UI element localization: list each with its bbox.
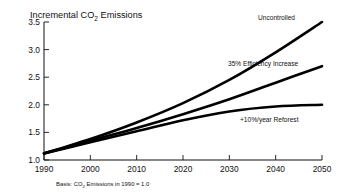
chart-title-suffix: Emissions bbox=[98, 10, 143, 20]
x-tick-label-3: 2020 bbox=[174, 164, 193, 174]
x-axis-labels: 1990 2000 2010 2020 2030 2040 2050 bbox=[35, 164, 332, 174]
x-tick-label-5: 2040 bbox=[266, 164, 285, 174]
y-tick-label-1: 1.5 bbox=[28, 127, 40, 137]
x-tick-label-2: 2010 bbox=[127, 164, 146, 174]
y-axis-ticks bbox=[44, 22, 49, 160]
x-axis-ticks bbox=[44, 155, 322, 160]
chart-footnote: Basis: CO2 Emissions in 1990 = 1.0 bbox=[56, 181, 150, 189]
footnote-suffix: Emissions in 1990 = 1.0 bbox=[85, 181, 150, 187]
series-label-reforest: +10%/year Reforest bbox=[240, 116, 299, 124]
x-tick-label-1: 2000 bbox=[81, 164, 100, 174]
x-tick-label-0: 1990 bbox=[35, 164, 54, 174]
y-tick-label-2: 2.0 bbox=[28, 100, 40, 110]
co2-emissions-line-chart: Incremental CO2 Emissions 1.0 1.5 2.0 2.… bbox=[0, 0, 341, 193]
chart-container: Incremental CO2 Emissions 1.0 1.5 2.0 2.… bbox=[0, 0, 341, 193]
y-tick-label-5: 3.5 bbox=[28, 17, 40, 27]
y-tick-label-4: 3.0 bbox=[28, 45, 40, 55]
y-tick-label-3: 2.5 bbox=[28, 72, 40, 82]
series-line-uncontrolled bbox=[44, 22, 322, 153]
series-label-efficiency: 35% Efficiency Increase bbox=[228, 60, 299, 68]
series-label-uncontrolled: Uncontrolled bbox=[258, 14, 295, 21]
y-axis-labels: 1.0 1.5 2.0 2.5 3.0 3.5 bbox=[28, 17, 40, 165]
data-series-group bbox=[44, 22, 322, 153]
footnote-prefix: Basis: CO bbox=[56, 181, 83, 187]
chart-title: Incremental CO2 Emissions bbox=[30, 10, 143, 22]
x-tick-label-6: 2050 bbox=[313, 164, 332, 174]
series-line-10-per-year-reforest bbox=[44, 105, 322, 154]
x-tick-label-4: 2030 bbox=[220, 164, 239, 174]
